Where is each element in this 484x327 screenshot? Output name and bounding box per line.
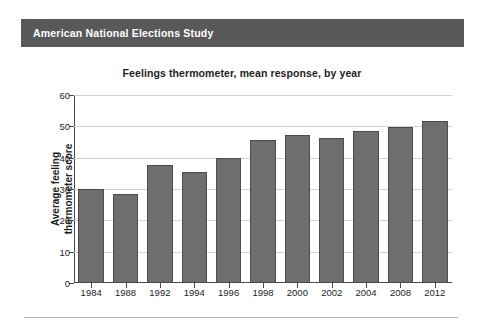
bar-2008	[388, 127, 413, 283]
y-tick-label: 30	[40, 184, 70, 195]
bar-2012	[422, 121, 447, 283]
section-banner: American National Elections Study	[21, 19, 464, 47]
chart-title: Feelings thermometer, mean response, by …	[0, 67, 484, 79]
chart-figure: Feelings thermometer, mean response, by …	[0, 47, 484, 317]
y-tick-label: 40	[40, 152, 70, 163]
y-tick-label: 0	[40, 278, 70, 289]
bar-2002	[319, 138, 344, 283]
bar-1996	[216, 158, 241, 283]
bar-1988	[113, 194, 138, 283]
bar-1992	[147, 165, 172, 283]
plot-area: Average feeling thermometer score 010203…	[74, 95, 452, 283]
y-tick-label: 10	[40, 246, 70, 257]
x-tick-label-2012: 2012	[415, 287, 455, 298]
y-tick-label: 20	[40, 215, 70, 226]
banner-title: American National Elections Study	[21, 27, 213, 39]
y-tick-label: 50	[40, 121, 70, 132]
bar-2000	[285, 135, 310, 283]
footer-rule	[24, 317, 458, 318]
bar-2004	[353, 131, 378, 283]
bar-1984	[78, 189, 103, 283]
bar-1994	[182, 172, 207, 283]
gridline	[74, 95, 452, 96]
bar-1998	[250, 140, 275, 283]
y-tick-label: 60	[40, 90, 70, 101]
